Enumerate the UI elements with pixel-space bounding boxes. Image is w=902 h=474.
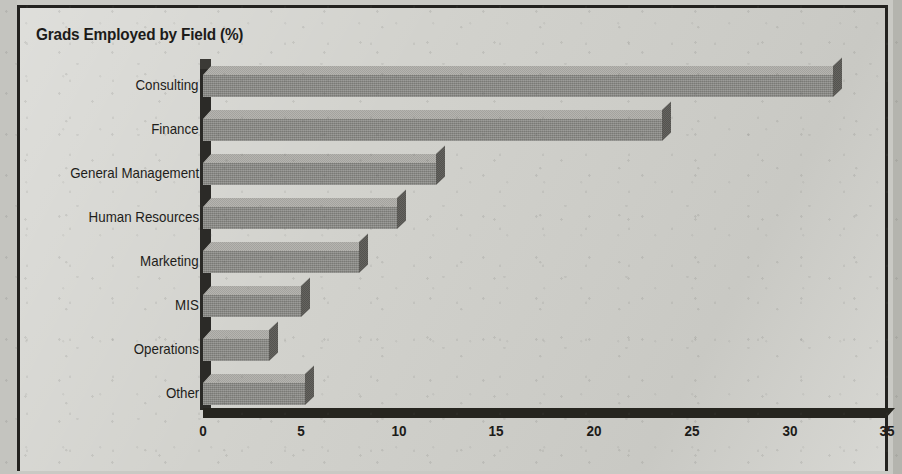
x-tick-label: 20 (586, 422, 601, 439)
x-axis-baseline (203, 408, 886, 418)
bar-front-face (203, 163, 436, 185)
bar-front-face (203, 251, 359, 273)
page-right-margin (893, 0, 902, 474)
bar-front-face (203, 207, 397, 229)
scanned-page: Grads Employed by Field (%) ConsultingFi… (0, 0, 902, 474)
category-label: Finance (152, 121, 199, 137)
bar-front-face (203, 339, 269, 361)
bar-side-face (269, 322, 278, 361)
bar-top-face (203, 374, 313, 383)
bar-front-face (203, 119, 662, 141)
bar-front-face (203, 295, 301, 317)
bar-top-face (203, 154, 444, 163)
bar-side-face (436, 146, 445, 185)
chart-frame: Grads Employed by Field (%) ConsultingFi… (17, 5, 888, 471)
bar-top-face (203, 330, 278, 339)
bar (203, 242, 368, 273)
x-tick-label: 35 (880, 422, 895, 439)
x-tick-label: 25 (684, 422, 699, 439)
bar-side-face (301, 278, 310, 317)
bar-side-face (662, 102, 671, 141)
bar-top-face (203, 286, 309, 295)
bar-top-face (203, 242, 367, 251)
bar-front-face (203, 383, 305, 405)
category-label: Consulting (136, 77, 199, 93)
category-label: MIS (175, 297, 199, 313)
x-axis-baseline-tip (886, 408, 895, 418)
x-tick-label: 0 (199, 422, 207, 439)
bar (203, 330, 278, 361)
bar-side-face (305, 366, 314, 405)
x-tick-label: 15 (489, 422, 504, 439)
category-label: Marketing (140, 253, 199, 269)
bar (203, 374, 314, 405)
category-label: Operations (134, 341, 199, 357)
bar (203, 198, 406, 229)
bar (203, 66, 842, 97)
category-label: General Management (70, 165, 199, 181)
bar-side-face (359, 234, 368, 273)
bar-side-face (397, 190, 406, 229)
x-tick-label: 30 (782, 422, 797, 439)
bar (203, 154, 445, 185)
category-label: Human Resources (89, 209, 199, 225)
bar-front-face (203, 75, 833, 97)
page-left-margin (0, 0, 17, 474)
bar-top-face (203, 110, 671, 119)
x-tick-label: 5 (297, 422, 305, 439)
bar-top-face (203, 66, 841, 75)
x-tick-label: 10 (391, 422, 406, 439)
bar-side-face (833, 58, 842, 97)
bar-top-face (203, 198, 405, 207)
category-label: Other (166, 385, 199, 401)
plot-area: ConsultingFinanceGeneral ManagementHuman… (20, 8, 891, 474)
chart-title: Grads Employed by Field (%) (36, 25, 243, 44)
bar (203, 110, 671, 141)
bar (203, 286, 310, 317)
